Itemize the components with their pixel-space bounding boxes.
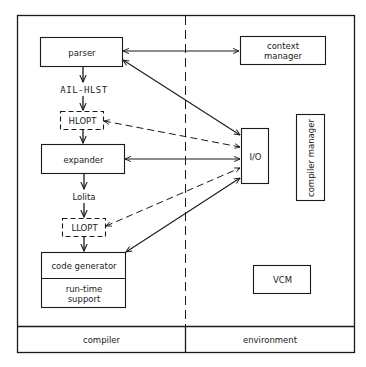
code-generator-label: code generator [42, 253, 126, 279]
io-label: I/O [242, 129, 269, 184]
arrow-hlopt-io-dashed [104, 121, 240, 147]
environment-section-label: environment [186, 327, 354, 352]
compiler-manager-label: compiler manager [297, 115, 325, 201]
compiler-section-label: compiler [18, 327, 185, 352]
arrow-llopt-io-dashed [106, 168, 240, 226]
arrow-codegen-io [126, 178, 240, 252]
context-manager-label: context manager [262, 37, 304, 65]
vcm-label: VCM [254, 266, 311, 294]
lolita-label: Lolita [60, 190, 108, 203]
parser-label: parser [41, 38, 123, 67]
arrow-parser-io [123, 60, 240, 135]
ail-hlst-label: AIL-HLST [48, 83, 120, 96]
llopt-label: LLOPT [63, 219, 106, 237]
hlopt-label: HLOPT [61, 112, 104, 130]
expander-label: expander [42, 145, 125, 174]
runtime-support-label: run-time support [62, 279, 106, 308]
